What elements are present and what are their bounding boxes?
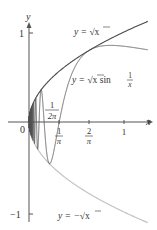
svg-text:1: 1: [50, 100, 54, 110]
svg-text:2π: 2π: [48, 111, 57, 121]
label-oscillating: y = √x sin 1 x: [71, 71, 133, 89]
x-tick-label-2-over-pi: 2 π: [85, 126, 93, 146]
svg-text:2: 2: [87, 126, 91, 136]
svg-text:1: 1: [57, 126, 61, 136]
x-tick-label-1-over-pi: 1 π: [55, 126, 63, 146]
x-axis-label: x: [145, 116, 151, 127]
svg-text:π: π: [57, 136, 62, 146]
y-tick-label-1: 1: [19, 28, 24, 39]
svg-text:y = −√x: y = −√x: [57, 211, 90, 221]
plot-canvas: y x 0 1 −1 1 π 2 π 1 1 2π y = √x y = √x …: [0, 0, 157, 230]
svg-text:π: π: [87, 136, 92, 146]
y-axis-arrow-icon: [27, 22, 32, 28]
label-upper-envelope: y = √x: [73, 27, 110, 37]
annotation-1-over-2pi: 1 2π: [45, 100, 59, 121]
svg-text:y = √x sin: y = √x sin: [71, 75, 111, 85]
y-tick-label-neg1: −1: [10, 209, 21, 220]
x-tick-label-1: 1: [122, 127, 127, 137]
svg-text:1: 1: [128, 71, 132, 80]
graph-figure: y x 0 1 −1 1 π 2 π 1 1 2π y = √x y = √x …: [0, 0, 157, 230]
y-axis-label: y: [25, 11, 31, 22]
origin-label: 0: [20, 124, 25, 135]
svg-text:y = √x: y = √x: [73, 27, 100, 37]
svg-text:x: x: [127, 80, 132, 89]
label-lower-envelope: y = −√x: [57, 211, 101, 221]
